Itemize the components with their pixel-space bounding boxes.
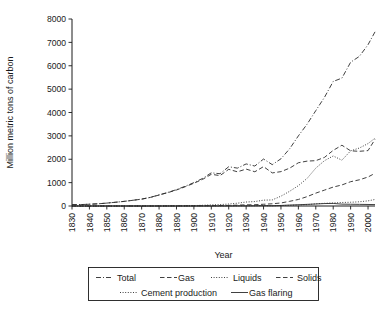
x-tick-label: 1990 <box>346 213 356 232</box>
y-tick-label: 8000 <box>47 14 66 24</box>
y-tick-label: 7000 <box>47 38 66 48</box>
x-tick-label: 1850 <box>102 213 112 232</box>
x-tick-label: 1860 <box>119 213 129 232</box>
y-tick-label: 5000 <box>47 84 66 94</box>
x-tick-label: 1970 <box>311 213 321 232</box>
x-tick-label: 1980 <box>328 213 338 232</box>
x-tick-label: 1890 <box>172 213 182 232</box>
legend-label-gas-flaring: Gas flaring <box>249 288 293 298</box>
x-tick-label: 1920 <box>224 213 234 232</box>
y-tick-label: 2000 <box>47 154 66 164</box>
x-tick-label: 1910 <box>207 213 217 232</box>
x-tick-label: 1940 <box>259 213 269 232</box>
chart-canvas: 010002000300040005000600070008000 183018… <box>0 0 391 318</box>
legend-label-gas: Gas <box>178 273 195 283</box>
legend-label-solids: Solids <box>297 273 322 283</box>
y-tick-label: 4000 <box>47 108 66 118</box>
x-tick-label: 1930 <box>241 213 251 232</box>
y-tick-label: 3000 <box>47 131 66 141</box>
legend-label-liquids: Liquids <box>233 273 262 283</box>
x-axis-title: Year <box>214 250 232 260</box>
x-tick-label: 1870 <box>137 213 147 232</box>
x-tick-label: 1830 <box>67 213 77 232</box>
emissions-line-chart: 010002000300040005000600070008000 183018… <box>0 0 391 318</box>
y-tick-label: 1000 <box>47 178 66 188</box>
legend-label-cement-production: Cement production <box>141 288 217 298</box>
legend-label-total: Total <box>117 273 136 283</box>
y-tick-label: 0 <box>61 201 66 211</box>
x-tick-label: 2000 <box>363 213 373 232</box>
x-tick-label: 1950 <box>276 213 286 232</box>
x-tick-label: 1900 <box>189 213 199 232</box>
y-tick-label: 6000 <box>47 61 66 71</box>
x-tick-label: 1880 <box>154 213 164 232</box>
x-tick-label: 1840 <box>85 213 95 232</box>
x-tick-label: 1960 <box>294 213 304 232</box>
y-axis-title: Million metric tons of carbon <box>5 56 15 168</box>
